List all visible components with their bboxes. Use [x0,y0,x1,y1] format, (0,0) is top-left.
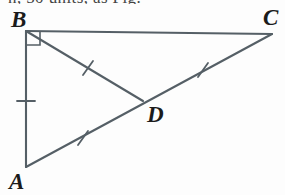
segment-BC [26,31,272,34]
segment-BD [26,31,143,101]
vertex-label-C: C [263,6,278,29]
geometry-figure-canvas: n, 50 units, as Fig. B C A D [0,0,285,195]
vertex-label-D: D [147,103,164,126]
vertex-label-B: B [11,8,26,31]
triangle-diagram-svg [0,0,285,195]
tick-BD-mark [83,61,93,75]
vertex-label-A: A [9,170,24,193]
tick-marks-group [17,61,208,145]
